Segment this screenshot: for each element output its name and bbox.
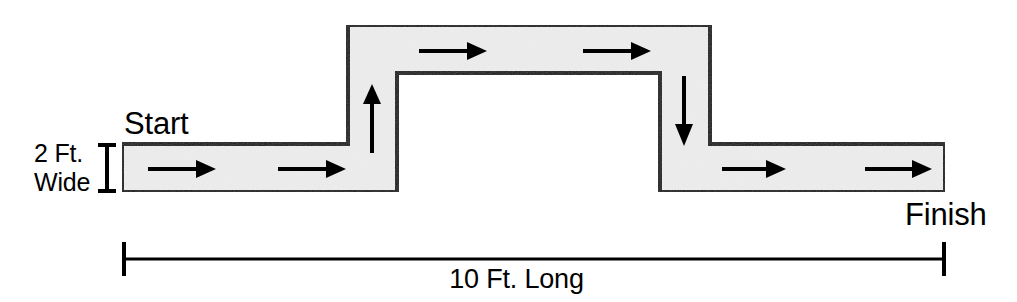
length-dimension-label: 10 Ft. Long (0, 266, 1017, 293)
course-path-outline (122, 25, 945, 192)
length-dimension-label-text: 10 Ft. Long (449, 266, 583, 293)
width-dimension-label: 2 Ft. Wide (34, 141, 90, 195)
height-dimension-marker (98, 144, 116, 192)
diagram-canvas (0, 0, 1017, 302)
width-dimension-label-line-1: 2 Ft. (34, 141, 90, 166)
start-label: Start (124, 108, 188, 139)
finish-label: Finish (905, 199, 987, 230)
obstacle-course-diagram: Start Finish 2 Ft. Wide 10 Ft. Long (0, 0, 1017, 302)
width-dimension-label-line-2: Wide (34, 170, 90, 195)
